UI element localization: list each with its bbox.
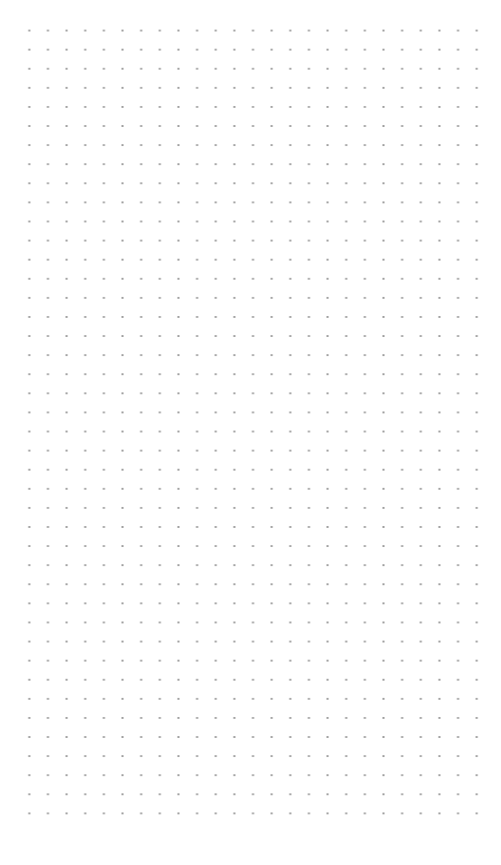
dot-grid-pattern [20,21,488,823]
